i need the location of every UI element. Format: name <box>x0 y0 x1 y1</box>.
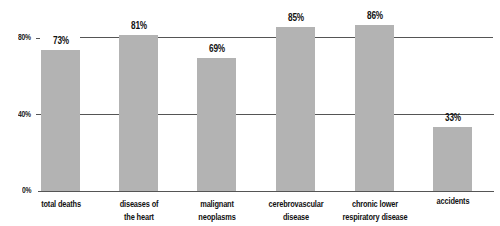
bar <box>197 58 236 191</box>
bar <box>433 127 472 191</box>
category-label: malignantneoplasms <box>174 197 260 223</box>
baseline-0 <box>38 191 494 192</box>
value-label: 81% <box>116 19 161 31</box>
bar <box>119 35 158 191</box>
value-label: 33% <box>430 111 475 123</box>
bar <box>355 25 394 191</box>
bar-chart: 80% 40% 0% 73%total deaths81%diseases of… <box>0 0 500 226</box>
bar <box>41 50 80 191</box>
value-label: 85% <box>273 11 318 23</box>
category-label: total deaths <box>18 197 104 210</box>
value-label: 73% <box>38 34 83 46</box>
bar <box>276 27 315 191</box>
value-label: 69% <box>194 42 239 54</box>
y-tick-80: 80% <box>18 32 31 42</box>
category-label: diseases ofthe heart <box>96 197 182 223</box>
value-label: 86% <box>352 9 397 21</box>
category-label: chronic lowerrespiratory disease <box>332 197 418 223</box>
y-tick-40: 40% <box>18 109 31 119</box>
category-label: accidents <box>410 194 496 207</box>
category-label: cerebrovasculardisease <box>253 197 339 223</box>
gridline-40 <box>36 114 494 115</box>
y-tick-0: 0% <box>22 185 31 195</box>
